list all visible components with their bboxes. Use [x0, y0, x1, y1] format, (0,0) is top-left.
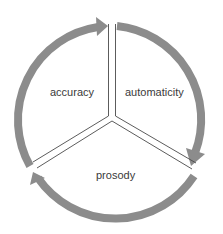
arrow-head-top-icon [96, 17, 108, 36]
cycle-arc-prosody [38, 176, 194, 219]
segment-label-accuracy: accuracy [50, 86, 94, 98]
cycle-graphic [0, 0, 223, 234]
segment-label-automaticity: automaticity [125, 86, 184, 98]
fluency-cycle-diagram: accuracy automaticity prosody [0, 0, 223, 234]
segment-label-prosody: prosody [96, 169, 135, 181]
